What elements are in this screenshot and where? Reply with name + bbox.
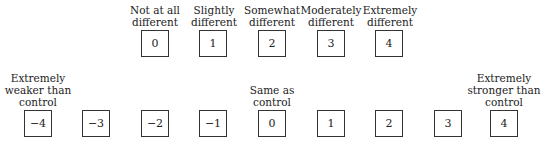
- label-line: weaker than: [0, 84, 78, 96]
- top-box-0[interactable]: 0: [141, 30, 169, 57]
- bottom-box-2[interactable]: 2: [375, 110, 403, 137]
- bottom-left-label: Extremely weaker than control: [0, 72, 78, 108]
- label-line: Extremely: [350, 4, 430, 16]
- bottom-box-neg4[interactable]: −4: [24, 110, 52, 137]
- bottom-box-4[interactable]: 4: [490, 110, 518, 137]
- bottom-box-neg2[interactable]: −2: [141, 110, 169, 137]
- bottom-box-0[interactable]: 0: [258, 110, 286, 137]
- bottom-box-neg3[interactable]: −3: [82, 110, 110, 137]
- bottom-center-label: Same as control: [232, 84, 312, 108]
- top-box-4[interactable]: 4: [375, 30, 403, 57]
- label-line: Extremely: [0, 72, 78, 84]
- bottom-box-neg1[interactable]: −1: [199, 110, 227, 137]
- top-label-4: Extremely different: [350, 4, 430, 28]
- bottom-box-1[interactable]: 1: [317, 110, 345, 137]
- label-line: stronger than: [464, 84, 544, 96]
- label-line: control: [464, 96, 544, 108]
- label-line: control: [0, 96, 78, 108]
- top-box-2[interactable]: 2: [258, 30, 286, 57]
- top-box-3[interactable]: 3: [317, 30, 345, 57]
- bottom-right-label: Extremely stronger than control: [464, 72, 544, 108]
- top-box-1[interactable]: 1: [199, 30, 227, 57]
- label-line: Same as: [232, 84, 312, 96]
- bottom-box-3[interactable]: 3: [434, 110, 462, 137]
- label-line: Extremely: [464, 72, 544, 84]
- label-line: control: [232, 96, 312, 108]
- label-line: different: [350, 16, 430, 28]
